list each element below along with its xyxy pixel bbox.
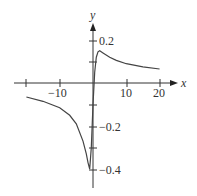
x-axis-label: x xyxy=(180,76,187,90)
x-axis-arrow-icon xyxy=(170,80,178,86)
y-tick-label: −0.4 xyxy=(99,163,121,177)
y-tick-label: −0.2 xyxy=(99,120,121,134)
y-axis-arrow-icon xyxy=(90,23,96,31)
x-tick-label: −10 xyxy=(48,86,67,100)
y-axis-label: y xyxy=(89,8,96,22)
chart: −10 10 20 0.2 −0.2 −0.4 x y xyxy=(0,0,197,196)
x-tick-label: 10 xyxy=(120,86,132,100)
y-tick-label: 0.2 xyxy=(99,34,114,48)
x-tick-label: 20 xyxy=(153,86,165,100)
